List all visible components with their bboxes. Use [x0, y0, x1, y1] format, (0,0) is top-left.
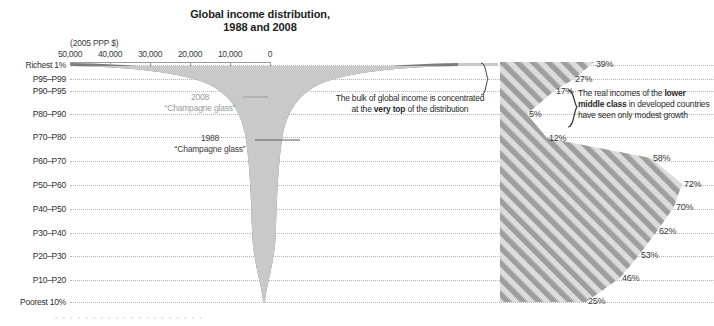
growth-value-label: 58% [653, 153, 670, 163]
growth-value-label: 12% [549, 133, 566, 143]
growth-value-label: 27% [575, 74, 592, 84]
growth-value-label: 46% [622, 273, 639, 283]
growth-value-label: 72% [684, 179, 701, 189]
bottom-faint-strip: • • • • • • • • • • • • • • • • • • • • [0, 310, 714, 326]
bottom-strip-text: • • • • • • • • • • • • • • • • • • • • [0, 310, 714, 325]
growth-value-label: 53% [641, 250, 658, 260]
growth-value-label: 17% [556, 86, 573, 96]
growth-value-label: 62% [659, 226, 676, 236]
growth-value-label: 39% [596, 59, 613, 69]
growth-value-label: 5% [529, 109, 541, 119]
growth-value-labels: 39%27%17%5%12%58%72%70%62%53%46%25% [0, 0, 714, 326]
growth-value-label: 70% [676, 202, 693, 212]
annotation-lmc-a: The real incomes of the [578, 88, 664, 98]
growth-value-label: 25% [588, 296, 605, 306]
annotation-lower-middle-class: The real incomes of the lower middle cla… [578, 88, 710, 121]
